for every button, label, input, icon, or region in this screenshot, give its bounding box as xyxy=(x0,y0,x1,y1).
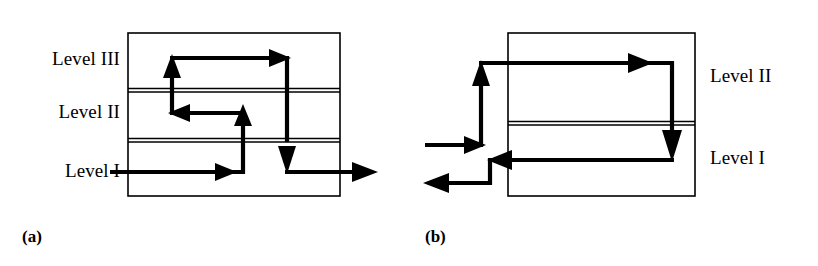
panel-a-separator-level2-level1 xyxy=(128,139,340,143)
panel-a-caption: (a) xyxy=(22,228,42,245)
panel-b-path-entry xyxy=(425,136,486,154)
panel-a-path-level1-entry xyxy=(110,163,243,181)
panel-a: Level III Level II Level I (a) xyxy=(0,0,409,266)
panel-b-path-level1-run xyxy=(487,150,674,170)
panel-a-separator-level3-level2 xyxy=(128,89,340,93)
panel-b: Level II Level I (b) xyxy=(409,0,818,266)
panel-a-level-label-iii: Level III xyxy=(32,49,120,68)
panel-b-path-descender-level2-to-level1 xyxy=(662,61,682,162)
panel-a-path-descender-level3-to-level1 xyxy=(278,56,296,174)
panel-b-path-riser-to-level2 xyxy=(472,60,490,147)
panel-a-path-level3-run xyxy=(170,49,291,67)
panel-b-separator-level2-level1 xyxy=(508,122,695,126)
panel-a-level-label-ii: Level II xyxy=(32,102,120,121)
panel-b-path-exit xyxy=(423,173,492,193)
panel-a-path-riser-level2-to-level3 xyxy=(163,54,181,115)
figure-root: Level III Level II Level I (a) xyxy=(0,0,818,266)
panel-b-diagram xyxy=(409,0,818,266)
panel-b-level-label-ii: Level II xyxy=(710,66,805,85)
panel-b-block-outline xyxy=(508,33,695,196)
panel-a-path-level1-exit xyxy=(285,162,378,182)
panel-b-level-label-i: Level I xyxy=(710,148,805,167)
panel-a-level-label-i: Level I xyxy=(32,161,120,180)
panel-b-caption: (b) xyxy=(425,228,446,245)
panel-a-path-level2-run xyxy=(168,104,245,122)
panel-a-diagram xyxy=(0,0,409,266)
